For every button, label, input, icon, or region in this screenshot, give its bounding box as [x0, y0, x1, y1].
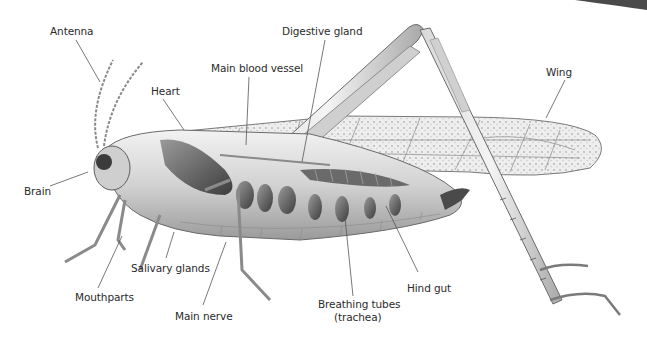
label-antenna: Antenna [50, 25, 93, 37]
label-breathing-tubes-subtitle: (trachea) [334, 311, 381, 323]
label-mouthparts: Mouthparts [75, 291, 134, 303]
label-brain: Brain [24, 185, 51, 197]
corner-shadow [575, 0, 647, 10]
label-breathing-tubes: Breathing tubes [318, 298, 400, 310]
label-digestive-gland: Digestive gland [282, 25, 362, 37]
label-main-nerve: Main nerve [175, 310, 233, 322]
label-salivary-glands: Salivary glands [131, 262, 210, 274]
label-hind-gut: Hind gut [407, 282, 451, 294]
label-wing: Wing [546, 66, 572, 78]
grasshopper-anatomy-diagram: Antenna Digestive gland Main blood vesse… [0, 0, 647, 344]
label-heart: Heart [151, 85, 180, 97]
label-main-blood-vessel: Main blood vessel [211, 62, 303, 74]
